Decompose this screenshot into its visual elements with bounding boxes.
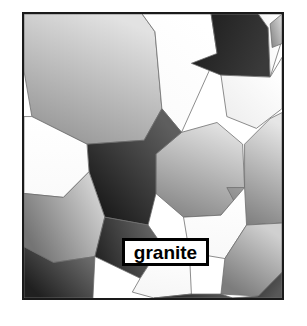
granite-microstructure-figure: granite	[0, 0, 307, 326]
granite-label-text: granite	[134, 243, 197, 262]
granite-label-callout: granite	[122, 238, 209, 266]
